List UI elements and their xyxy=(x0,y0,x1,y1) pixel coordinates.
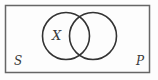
left-circle-label: X xyxy=(51,28,62,43)
left-circle xyxy=(43,13,90,60)
universe-label-p: P xyxy=(135,54,145,68)
venn-diagram: X S P xyxy=(0,0,158,80)
right-circle xyxy=(70,13,117,60)
venn-diagram-canvas: X S P xyxy=(0,0,158,80)
universe-label-s: S xyxy=(14,54,22,68)
